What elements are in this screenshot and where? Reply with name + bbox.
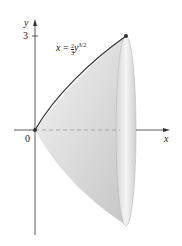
origin-point xyxy=(33,128,37,132)
x-axis-arrow xyxy=(163,128,170,132)
origin-label: 0 xyxy=(25,134,30,144)
eq-exponent: 3/2 xyxy=(79,42,87,48)
y-tick-label: 3 xyxy=(23,31,28,41)
surface-body xyxy=(35,36,126,225)
endpoint xyxy=(124,34,128,38)
curve-equation: x = 23y3/2 xyxy=(56,42,86,56)
end-cap xyxy=(116,36,136,226)
y-axis-arrow xyxy=(33,19,37,26)
eq-sign: = xyxy=(60,42,71,53)
y-axis-label: y xyxy=(24,18,28,28)
x-axis-label: x xyxy=(164,134,168,144)
